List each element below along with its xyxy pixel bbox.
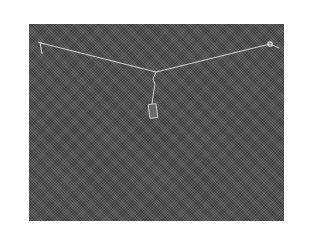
wire	[41, 43, 279, 72]
wire-illustration	[29, 24, 284, 221]
hanging-weight	[148, 104, 158, 119]
photograph	[29, 24, 284, 221]
hanging-string	[152, 72, 156, 104]
